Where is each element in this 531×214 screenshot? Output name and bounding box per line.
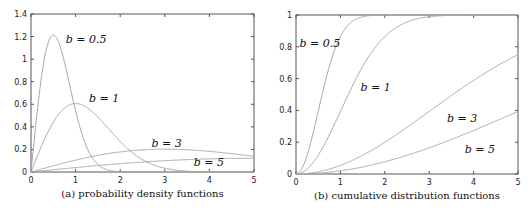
series-label: b = 0.5 [300, 37, 341, 50]
x-tick-label: 3 [162, 176, 167, 185]
y-tick-label: 0.2 [14, 145, 27, 154]
y-tick-label: 0 [22, 168, 27, 177]
x-tick-label: 4 [471, 178, 476, 187]
x-tick-label: 5 [515, 178, 520, 187]
y-tick-label: 0 [287, 170, 292, 179]
y-tick-label: 0.6 [14, 100, 27, 109]
x-tick-label: 1 [73, 176, 78, 185]
x-tick-label: 0 [293, 178, 298, 187]
y-tick-label: 0.2 [279, 138, 292, 147]
x-tick-label: 0 [28, 176, 33, 185]
y-tick-label: 0.6 [279, 75, 292, 84]
x-tick-label: 3 [427, 178, 432, 187]
x-tick-label: 5 [251, 176, 256, 185]
series-label: b = 1 [89, 92, 119, 105]
y-tick-label: 0.8 [279, 43, 292, 52]
series-label: b = 5 [194, 156, 224, 169]
plot-frame [31, 14, 254, 172]
chart-caption: (a) probability density functions [61, 188, 223, 199]
series-label: b = 5 [465, 143, 495, 156]
y-tick-label: 0.4 [279, 106, 292, 115]
chart-caption: (b) cumulative distribution functions [314, 190, 500, 201]
figure: 01234500.20.40.60.811.21.4b = 0.5b = 1b … [0, 0, 531, 214]
series-label: b = 0.5 [66, 33, 107, 46]
y-tick-label: 0.8 [14, 78, 27, 87]
x-tick-label: 1 [338, 178, 343, 187]
curve-b-0-5 [31, 35, 254, 172]
cdf-chart: 01234500.20.40.60.81b = 0.5b = 1b = 3b =… [279, 11, 520, 201]
y-tick-label: 1 [287, 11, 292, 20]
pdf-chart: 01234500.20.40.60.811.21.4b = 0.5b = 1b … [14, 10, 256, 199]
x-tick-label: 4 [207, 176, 212, 185]
y-tick-label: 1 [22, 55, 27, 64]
series-label: b = 3 [447, 112, 477, 125]
series-label: b = 1 [360, 81, 390, 94]
x-tick-label: 2 [118, 176, 123, 185]
y-tick-label: 0.4 [14, 123, 27, 132]
y-tick-label: 1.4 [14, 10, 27, 19]
series-label: b = 3 [151, 137, 181, 150]
x-tick-label: 2 [382, 178, 387, 187]
y-tick-label: 1.2 [14, 33, 27, 42]
